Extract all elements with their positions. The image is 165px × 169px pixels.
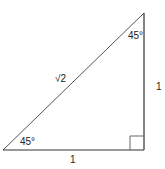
- hypotenuse-edge: [3, 13, 144, 150]
- horizontal-leg-label: 1: [70, 154, 76, 165]
- bottom-left-angle-label: 45°: [20, 136, 35, 147]
- hypotenuse-label: √2: [55, 73, 66, 84]
- vertical-leg-label: 1: [156, 81, 162, 92]
- triangle-diagram: 45° 45° √2 1 1: [0, 0, 165, 169]
- right-angle-marker: [130, 136, 144, 150]
- triangle-edges: [3, 13, 144, 150]
- top-angle-label: 45°: [128, 30, 143, 41]
